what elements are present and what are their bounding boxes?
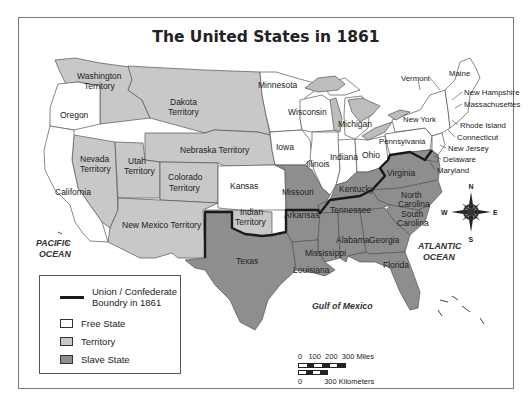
label-connecticut: Connecticut [457, 133, 499, 142]
region-new-jersey [432, 133, 445, 155]
label-washington-1: Washington [77, 71, 122, 81]
label-atlantic-ocean-1: ATLANTIC [417, 241, 462, 251]
label-washington-2: Territory [84, 81, 115, 91]
boundary-line-swatch [60, 296, 84, 299]
legend-free-state: Free State [60, 318, 125, 329]
label-ohio: Ohio [362, 150, 380, 160]
label-alabama: Alabama [336, 235, 370, 245]
label-nevada-1: Nevada [80, 154, 110, 164]
territory-swatch [60, 337, 73, 346]
scale-km-label: 300 Kilometers [324, 377, 374, 386]
scale-miles-label: 0 100 200 300 Miles [298, 352, 374, 361]
label-california: California [55, 187, 91, 197]
compass-n: N [469, 183, 474, 190]
label-maine: Maine [449, 69, 470, 78]
scale-km-zero: 0 [298, 377, 302, 386]
label-pacific-ocean-2: OCEAN [39, 249, 71, 259]
label-arkansas: Arkansas [284, 210, 319, 220]
label-delaware: Delaware [443, 155, 476, 164]
label-tennessee: Tennessee [330, 205, 371, 215]
label-michigan: Michigan [338, 119, 372, 129]
label-indian-2: Territory [235, 217, 266, 227]
compass-s: S [469, 236, 474, 243]
label-pennsylvania: Pennsylvania [379, 137, 426, 146]
label-nebraska: Nebraska Territory [180, 145, 250, 155]
label-pacific-ocean-1: PACIFIC [36, 238, 71, 248]
label-dakota-1: Dakota [170, 97, 197, 107]
lake-superior [305, 76, 345, 92]
label-mississippi: Mississippi [305, 248, 346, 258]
label-nevada-2: Territory [80, 164, 111, 174]
legend-free-state-label: Free State [81, 318, 125, 329]
label-minnesota: Minnesota [258, 80, 297, 90]
label-utah-1: Utah [128, 156, 146, 166]
label-georgia: Georgia [369, 235, 400, 245]
slave-state-swatch [60, 355, 73, 364]
label-gulf-of-mexico: Gulf of Mexico [312, 301, 373, 311]
map-legend: Union / Confederate Boundry in 1861 Free… [39, 275, 181, 374]
label-iowa: Iowa [276, 142, 294, 152]
legend-territory-label: Territory [81, 336, 115, 347]
label-new-hampshire: New Hampshire [464, 88, 519, 97]
label-dakota-2: Territory [168, 107, 199, 117]
label-vermont: Vermont [401, 74, 431, 83]
free-state-swatch [60, 319, 73, 328]
label-kentucky: Kentucky [339, 184, 375, 194]
label-indian-1: Indian [240, 207, 263, 217]
label-colorado-2: Territory [169, 183, 200, 193]
label-kansas: Kansas [230, 181, 258, 191]
label-wisconsin: Wisconsin [288, 107, 327, 117]
label-florida: Florida [383, 260, 409, 270]
label-new-mexico: New Mexico Territory [122, 220, 202, 230]
legend-slave-state: Slave State [60, 354, 130, 365]
label-virginia: Virginia [387, 168, 415, 178]
label-indiana: Indiana [330, 152, 358, 162]
legend-boundary-label-2: Boundry in 1861 [92, 297, 177, 308]
compass-rose: N S E W [441, 183, 498, 243]
label-new-jersey: New Jersey [448, 144, 489, 153]
label-maryland: Maryland [437, 166, 469, 175]
bahamas-islands [438, 296, 484, 324]
legend-territory: Territory [60, 336, 115, 347]
label-massachusettes: Massachusettes [464, 100, 520, 109]
compass-e: E [493, 209, 498, 216]
label-atlantic-ocean-2: OCEAN [423, 252, 455, 262]
label-utah-2: Territory [124, 166, 155, 176]
compass-w: W [441, 209, 448, 216]
label-rhode-island: Rhode Island [460, 121, 506, 130]
legend-boundary: Union / Confederate Boundry in 1861 [60, 286, 177, 308]
legend-boundary-label-1: Union / Confederate [92, 286, 177, 297]
label-illinois: Illinois [306, 159, 330, 169]
region-dakota-territory [128, 66, 270, 135]
scale-bar-miles [298, 363, 346, 368]
legend-slave-state-label: Slave State [81, 354, 130, 365]
label-texas: Texas [236, 256, 258, 266]
label-oregon: Oregon [60, 110, 89, 120]
scale-bar: 0 100 200 300 Miles 0 300 Kilometers [298, 352, 374, 386]
label-south-carolina-2: Carolina [397, 218, 429, 228]
label-missouri: Missouri [282, 187, 314, 197]
label-colorado-1: Colorado [168, 172, 203, 182]
label-louisiana: Louisiana [293, 265, 330, 275]
scale-bar-km [298, 370, 328, 375]
label-new-york: New York [403, 115, 436, 124]
label-north-carolina-2: Carolina [398, 199, 430, 209]
